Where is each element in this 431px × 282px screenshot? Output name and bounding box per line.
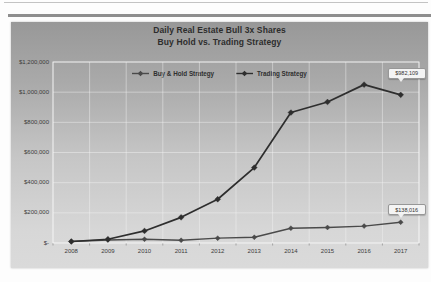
x-tick-label: 2009 bbox=[90, 248, 126, 255]
data-label-trading-final: $982,109 bbox=[388, 68, 426, 79]
data-point-marker-0 bbox=[362, 224, 367, 229]
x-tick-label: 2011 bbox=[163, 248, 199, 255]
x-tick-label: 2015 bbox=[310, 248, 346, 255]
data-point-marker-1 bbox=[105, 236, 111, 242]
x-tick-label: 2014 bbox=[273, 248, 309, 255]
x-tick-label: 2010 bbox=[127, 248, 163, 255]
data-point-marker-1 bbox=[142, 228, 148, 234]
data-label-buyhold-final: $138,016 bbox=[388, 204, 426, 215]
data-point-marker-0 bbox=[398, 220, 403, 225]
x-tick-label: 2016 bbox=[346, 248, 382, 255]
y-tick-label: $- bbox=[11, 240, 49, 247]
page: Daily Real Estate Bull 3x Shares Buy Hol… bbox=[0, 0, 431, 282]
data-point-marker-1 bbox=[325, 99, 331, 105]
data-point-marker-1 bbox=[178, 214, 184, 220]
plot-area bbox=[11, 22, 428, 268]
y-tick-label: $800,000 bbox=[11, 119, 49, 126]
data-point-marker-0 bbox=[142, 237, 147, 242]
data-point-marker-1 bbox=[398, 92, 404, 98]
data-point-marker-1 bbox=[361, 82, 367, 88]
y-tick-label: $600,000 bbox=[11, 149, 49, 156]
y-tick-label: $1,200,000 bbox=[11, 59, 49, 66]
x-tick-label: 2013 bbox=[236, 248, 272, 255]
data-point-marker-0 bbox=[215, 236, 220, 241]
data-point-marker-0 bbox=[325, 225, 330, 230]
top-rule-thick bbox=[8, 14, 431, 17]
chart: Daily Real Estate Bull 3x Shares Buy Hol… bbox=[11, 22, 428, 268]
data-point-marker-1 bbox=[68, 239, 74, 245]
data-point-marker-0 bbox=[288, 226, 293, 231]
y-tick-label: $400,000 bbox=[11, 179, 49, 186]
x-tick-label: 2008 bbox=[53, 248, 89, 255]
data-point-marker-0 bbox=[252, 235, 257, 240]
top-rule-thin bbox=[4, 2, 428, 3]
x-tick-label: 2017 bbox=[383, 248, 419, 255]
x-tick-label: 2012 bbox=[200, 248, 236, 255]
y-tick-label: $200,000 bbox=[11, 209, 49, 216]
y-tick-label: $1,000,000 bbox=[11, 89, 49, 96]
data-point-marker-0 bbox=[179, 238, 184, 243]
